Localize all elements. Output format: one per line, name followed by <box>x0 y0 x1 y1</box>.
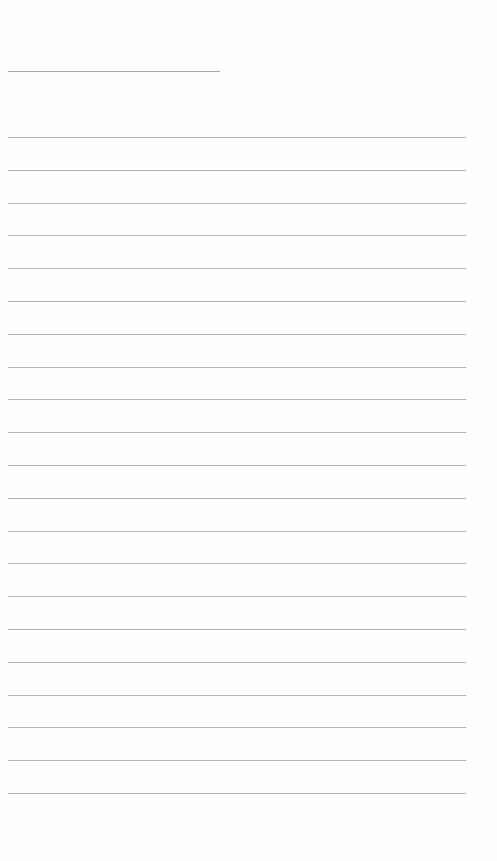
ruled-line <box>8 465 466 466</box>
ruled-line <box>8 531 466 532</box>
ruled-line <box>8 596 466 597</box>
ruled-line <box>8 760 466 761</box>
header-line <box>8 71 220 72</box>
ruled-line <box>8 498 466 499</box>
ruled-line <box>8 629 466 630</box>
ruled-line <box>8 367 466 368</box>
ruled-line <box>8 563 466 564</box>
ruled-line <box>8 727 466 728</box>
ruled-line <box>8 203 466 204</box>
ruled-line <box>8 334 466 335</box>
ruled-line <box>8 235 466 236</box>
ruled-line <box>8 793 466 794</box>
ruled-line <box>8 137 466 138</box>
ruled-line <box>8 170 466 171</box>
ruled-line <box>8 399 466 400</box>
ruled-line <box>8 662 466 663</box>
ruled-line <box>8 432 466 433</box>
ruled-line <box>8 301 466 302</box>
ruled-line <box>8 695 466 696</box>
ruled-line <box>8 268 466 269</box>
